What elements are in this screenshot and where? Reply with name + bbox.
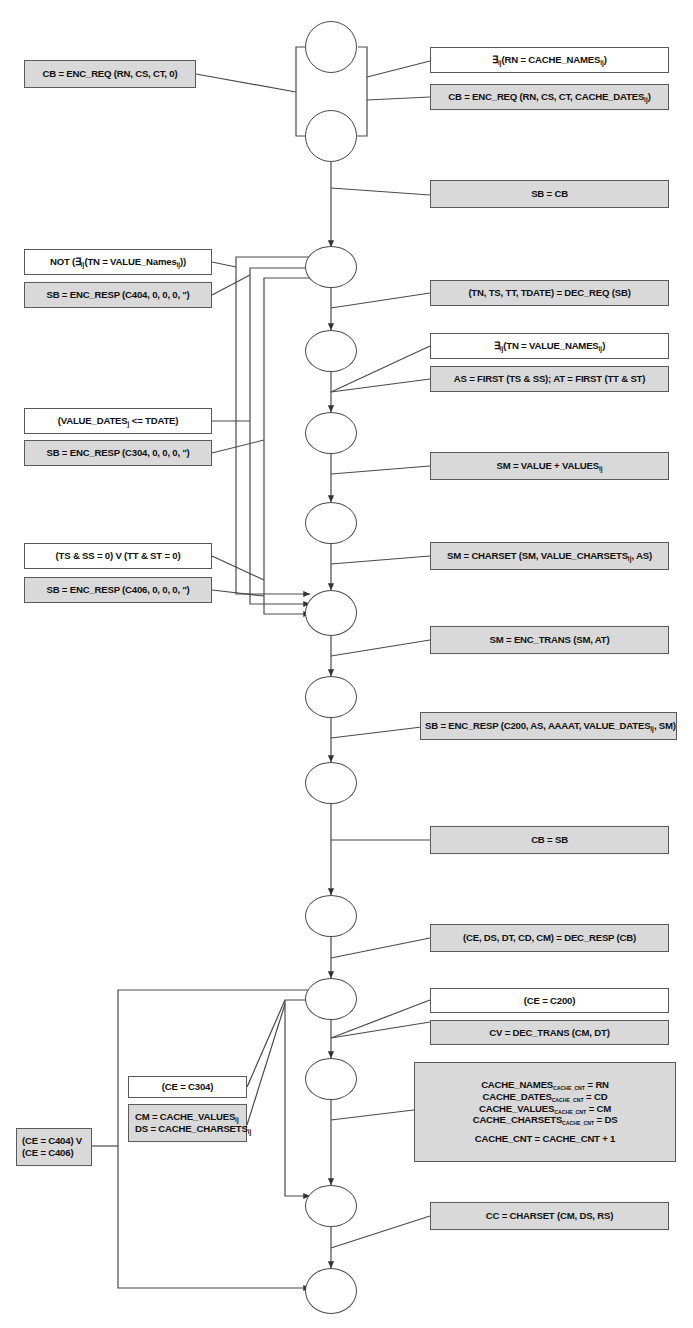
node-4[interactable] [305, 330, 357, 372]
label-cc-charset: CC = CHARSET (CM, DS, RS) [430, 1202, 669, 1230]
node-3[interactable] [305, 246, 357, 288]
label-sb-enc-resp-404: SB = ENC_RESP (C404, 0, 0, 0, '') [24, 282, 212, 308]
label-cm-ds-cache: CM = CACHE_VALUESij DS = CACHE_CHARSETSi… [128, 1104, 247, 1142]
label-exists-rn-cache-names: ∃ij(RN = CACHE_NAMESij) [430, 47, 669, 73]
label-sb-eq-cb: SB = CB [430, 180, 669, 208]
label-sm-charset: SM = CHARSET (SM, VALUE_CHARSETSij, AS) [430, 542, 669, 570]
node-start[interactable] [305, 21, 357, 73]
flowchart-canvas: CB = ENC_REQ (RN, CS, CT, 0) ∃ij(RN = CA… [0, 0, 693, 1328]
label-not-exists-tn-value-names: NOT (∃ij(TN = VALUE_Namesij)) [24, 249, 212, 275]
label-cv-dec-trans: CV = DEC_TRANS (CM, DT) [430, 1020, 669, 1045]
label-sm-value-plus-values: SM = VALUE + VALUESij [430, 452, 669, 480]
label-cache-assignments: CACHE_NAMESCACHE_CNT = RN CACHE_DATESCAC… [414, 1062, 676, 1162]
node-2[interactable] [305, 110, 357, 162]
label-ce-404-or-406: (CE = C404) V (CE = C406) [16, 1128, 92, 1166]
label-dec-resp: (CE, DS, DT, CD, CM) = DEC_RESP (CB) [430, 924, 669, 952]
label-value-dates-lte-tdate: (VALUE_DATESj <= TDATE) [24, 408, 212, 434]
label-cb-eq-sb: CB = SB [430, 826, 669, 854]
label-ce-eq-c304: (CE = C304) [128, 1076, 247, 1098]
label-sb-enc-resp-304: SB = ENC_RESP (C304, 0, 0, 0, '') [24, 440, 212, 466]
node-5[interactable] [305, 412, 357, 454]
label-sb-enc-resp-406: SB = ENC_RESP (C406, 0, 0, 0, '') [24, 577, 212, 603]
label-dec-req: (TN, TS, TT, TDATE) = DEC_REQ (SB) [430, 280, 669, 306]
label-cb-enc-req-cache-dates: CB = ENC_REQ (RN, CS, CT, CACHE_DATESij) [430, 84, 669, 110]
node-10[interactable] [305, 895, 357, 937]
node-6[interactable] [305, 502, 357, 544]
label-sm-enc-trans: SM = ENC_TRANS (SM, AT) [430, 626, 669, 654]
label-exists-tn-value-names: ∃ij(TN = VALUE_NAMESij) [430, 333, 669, 359]
node-9[interactable] [305, 762, 357, 804]
node-12[interactable] [305, 1058, 357, 1100]
node-11[interactable] [305, 978, 357, 1020]
node-13[interactable] [305, 1185, 357, 1227]
node-end[interactable] [305, 1268, 357, 1314]
label-cb-enc-req-0: CB = ENC_REQ (RN, CS, CT, 0) [24, 60, 196, 88]
label-ce-eq-c200: (CE = C200) [430, 988, 669, 1013]
node-7[interactable] [305, 590, 357, 636]
label-as-at-first: AS = FIRST (TS & SS); AT = FIRST (TT & S… [430, 366, 669, 392]
label-sb-enc-resp-200: SB = ENC_RESP (C200, AS, AAAAT, VALUE_DA… [420, 712, 677, 740]
label-ts-ss-tt-st-zero: (TS & SS = 0) V (TT & ST = 0) [24, 543, 212, 569]
node-8[interactable] [305, 676, 357, 718]
